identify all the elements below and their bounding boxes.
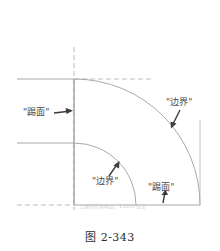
inner-boundary-arc	[74, 143, 136, 205]
figure-caption: 图 2-343	[0, 228, 220, 244]
watermark-text: 广土建的传具构造，13500 形金	[74, 203, 192, 210]
edge-right-arrow	[171, 110, 181, 129]
label-riser-lower: "踢面"	[148, 182, 174, 193]
riser-left-arrow	[54, 108, 73, 114]
engineering-drawing	[0, 0, 220, 251]
figure-container: "踢面" "边界" "边界" "踢面" 广土建的传具构造，13500 形金 图 …	[0, 0, 220, 251]
label-riser-left: "踢面"	[23, 107, 49, 118]
label-edge-lower: "边界"	[92, 176, 118, 187]
edge-lower-arrow	[109, 161, 120, 176]
label-edge-right: "边界"	[166, 97, 192, 108]
